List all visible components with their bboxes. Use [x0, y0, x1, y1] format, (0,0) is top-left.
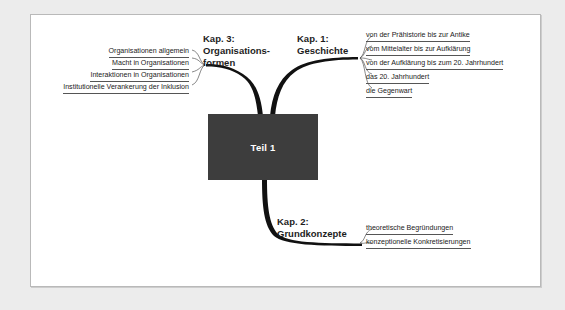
leaf-item[interactable]: konzeptionelle Konkretisierungen — [366, 238, 471, 249]
leaf-item[interactable]: Macht in Organisationen — [112, 59, 189, 70]
center-node[interactable]: Teil 1 — [208, 114, 318, 180]
branch-label-kap3[interactable]: Kap. 3: Organisations- formen — [203, 33, 270, 70]
leaf-item[interactable]: Organisationen allgemein — [109, 47, 189, 58]
leaf-item[interactable]: Interaktionen in Organisationen — [90, 71, 189, 82]
branch-stroke-kap1 — [270, 57, 358, 116]
branch-label-kap2[interactable]: Kap. 2: Grundkonzepte — [277, 216, 347, 240]
leaf-item[interactable]: das 20. Jahrhundert — [366, 73, 429, 84]
mindmap-root: Teil 1 Kap. 3: Organisations- formen Kap… — [0, 0, 565, 310]
leaf-item[interactable]: von der Aufklärung bis zum 20. Jahrhunde… — [366, 59, 503, 70]
leaf-item[interactable]: Institutionelle Verankerung der Inklusio… — [63, 83, 189, 94]
leaf-item[interactable]: vom Mittelalter bis zur Aufklärung — [366, 45, 470, 56]
leaf-item[interactable]: theoretische Begründungen — [366, 224, 453, 235]
branch-label-kap1[interactable]: Kap. 1: Geschichte — [297, 33, 348, 57]
leaf-item[interactable]: von der Prähistorie bis zur Antike — [366, 31, 470, 42]
center-node-label: Teil 1 — [251, 142, 276, 153]
leaf-item[interactable]: die Gegenwart — [366, 87, 412, 98]
branch-stroke-kap3 — [206, 64, 263, 116]
